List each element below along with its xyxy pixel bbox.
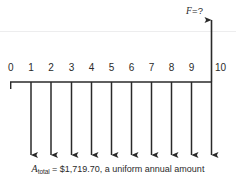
tick-label-1: 1 [26, 63, 36, 73]
future-worth-label: F=? [186, 5, 203, 16]
tick-label-9: 9 [187, 63, 197, 73]
tick-label-3: 3 [67, 63, 77, 73]
tick-label-6: 6 [127, 63, 137, 73]
tick-label-8: 8 [167, 63, 177, 73]
tick-label-0: 0 [6, 63, 16, 73]
caption-subscript: total [38, 168, 50, 175]
diagram-caption: Atotal = $1,719.70, a uniform annual amo… [0, 163, 236, 175]
cash-flow-diagram: 0 1 2 3 4 5 6 7 8 9 10 F=? Atotal = $1,7… [0, 0, 236, 188]
tick-label-2: 2 [46, 63, 56, 73]
future-worth-value: ? [198, 5, 203, 16]
tick-label-7: 7 [147, 63, 157, 73]
caption-description: a uniform annual amount [102, 164, 204, 174]
caption-amount: = $1,719.70, [50, 164, 103, 174]
tick-label-5: 5 [107, 63, 117, 73]
tick-label-4: 4 [87, 63, 97, 73]
tick-label-10: 10 [215, 63, 229, 73]
diagram-canvas [0, 0, 236, 188]
